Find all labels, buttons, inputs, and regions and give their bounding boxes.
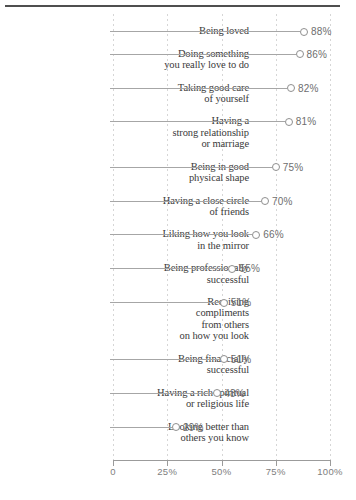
- dot-marker: [261, 197, 269, 205]
- category-label: Looking better thanothers you know: [168, 421, 249, 444]
- category-label-line: compliments: [180, 307, 249, 318]
- connector-line: [110, 234, 252, 235]
- axis-tick-label: 50%: [200, 466, 244, 477]
- connector-line: [110, 393, 213, 394]
- category-label: Being in goodphysical shape: [189, 161, 249, 184]
- value-label: 70%: [272, 196, 293, 207]
- axis-tick-label: 0: [91, 466, 135, 477]
- category-label-line: Looking better than: [168, 421, 249, 432]
- connector-line: [110, 359, 220, 360]
- value-label: 29%: [183, 422, 204, 433]
- connector-line: [110, 268, 228, 269]
- category-label-line: of yourself: [178, 93, 249, 104]
- category-label-line: or marriage: [172, 138, 249, 149]
- connector-line: [110, 88, 287, 89]
- value-label: 48%: [224, 388, 245, 399]
- value-label: 51%: [231, 297, 252, 308]
- axis-tick-label: 25%: [145, 466, 189, 477]
- value-label: 66%: [263, 229, 284, 240]
- category-label-line: successful: [164, 274, 249, 285]
- category-label: Doing somethingyou really love to do: [164, 48, 249, 71]
- value-label: 82%: [298, 83, 319, 94]
- connector-line: [110, 427, 172, 428]
- dot-marker: [285, 118, 293, 126]
- value-label: 51%: [231, 354, 252, 365]
- connector-line: [110, 167, 272, 168]
- category-label: Taking good careof yourself: [178, 82, 249, 105]
- gridline: [330, 14, 331, 460]
- dot-marker: [220, 299, 228, 307]
- connector-line: [110, 54, 296, 55]
- category-label: Liking how you lookin the mirror: [163, 228, 249, 251]
- value-label: 81%: [296, 116, 317, 127]
- connector-line: [110, 31, 300, 32]
- dot-marker: [220, 355, 228, 363]
- value-label: 75%: [283, 162, 304, 173]
- category-label-line: of friends: [163, 206, 249, 217]
- category-label-line: successful: [178, 364, 249, 375]
- category-label-line: in the mirror: [163, 240, 249, 251]
- top-rule: [5, 5, 340, 7]
- category-label-line: from others: [180, 319, 249, 330]
- category-label-line: or religious life: [157, 398, 249, 409]
- axis-tick-label: 75%: [254, 466, 298, 477]
- dot-marker: [252, 231, 260, 239]
- category-label-line: you really love to do: [164, 59, 249, 70]
- value-label: 88%: [311, 26, 332, 37]
- value-label: 55%: [239, 263, 260, 274]
- category-label-line: physical shape: [189, 172, 249, 183]
- axis-tick-label: 100%: [308, 466, 352, 477]
- dot-marker: [287, 84, 295, 92]
- dot-marker: [296, 50, 304, 58]
- dot-marker: [172, 423, 180, 431]
- connector-line: [110, 201, 261, 202]
- category-label-line: on how you look: [180, 330, 249, 341]
- dot-marker: [272, 163, 280, 171]
- dot-marker: [300, 28, 308, 36]
- dot-plot-chart: Being loved88%Doing somethingyou really …: [0, 0, 356, 500]
- category-label-line: others you know: [168, 432, 249, 443]
- connector-line: [110, 302, 220, 303]
- category-label-line: strong relationship: [172, 127, 249, 138]
- connector-line: [110, 121, 285, 122]
- value-label: 86%: [307, 49, 328, 60]
- category-label: Being professionallysuccessful: [164, 262, 249, 285]
- category-label: Having a close circleof friends: [163, 195, 249, 218]
